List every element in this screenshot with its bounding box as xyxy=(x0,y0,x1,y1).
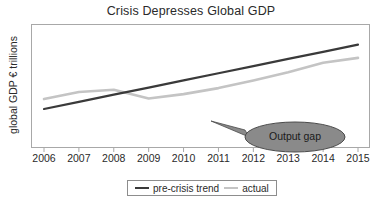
legend-entry[interactable]: pre-crisis trend xyxy=(135,183,219,194)
legend-label: actual xyxy=(242,183,269,194)
legend-label: pre-crisis trend xyxy=(153,183,219,194)
chart-legend: pre-crisis trendactual xyxy=(127,180,277,196)
series-group xyxy=(44,45,358,109)
y-axis-title: global GDP € trillions xyxy=(7,25,19,145)
x-axis-tick-label: 2015 xyxy=(338,152,378,164)
chart-title: Crisis Depresses Global GDP xyxy=(0,4,382,18)
x-axis-tick-labels: 2006200720082009201020112012201320142015 xyxy=(31,152,370,166)
series-line-actual xyxy=(44,58,358,99)
legend-entry[interactable]: actual xyxy=(224,183,269,194)
chart-container: Crisis Depresses Global GDP global GDP €… xyxy=(0,0,382,205)
series-line-pre-crisis-trend xyxy=(44,45,358,109)
legend-line-swatch xyxy=(224,187,238,190)
legend-line-swatch xyxy=(135,187,149,190)
callout-label: Output gap xyxy=(235,130,355,142)
